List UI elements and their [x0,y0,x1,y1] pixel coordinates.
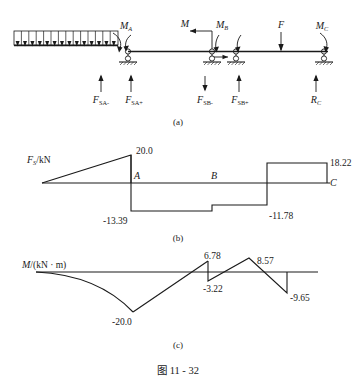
moment-MB-right-arrow [235,35,241,53]
label-MB: MB [215,19,228,31]
shear-value-neg1339: -13.39 [103,216,128,226]
label-MA: MA [119,20,132,32]
figure-caption: 图 11 - 32 [157,365,199,376]
shear-value-1822: 18.22 [330,158,352,168]
panel-label-b: (b) [173,233,184,243]
moment-MB-left-arrow [214,35,229,59]
label-M: M [180,18,190,29]
moment-axis-label: M/(kN · m) [21,259,66,271]
moment-value-857: 8.57 [257,256,274,266]
moment-MC-arrow [320,33,329,53]
label-FSA-minus: FSA- [92,94,109,106]
shear-axis-label: FS/kN [26,154,51,166]
reaction-FSA-plus-arrow [128,75,133,93]
label-RC: RC [310,94,322,106]
moment-curve-parabolic [36,272,133,312]
bending-moment-diagram: M/(kN · m) -20.0 6.78 -3.22 8.57 -9.65 (… [21,251,318,350]
label-FSA-plus: FSA+ [124,94,143,106]
support-C [315,54,333,65]
label-MC: MC [315,20,329,32]
reaction-FSB-plus-arrow [236,75,241,93]
moment-line-AB [133,261,208,312]
shear-station-A: A [133,170,141,181]
panel-label-a: (a) [173,117,183,127]
reaction-FSB-minus-arrow [202,76,207,92]
panel-label-c: (c) [173,340,183,350]
shear-station-C: C [330,177,337,188]
shear-force-diagram: FS/kN A B C 20.0 -13.39 -11.78 18.22 (b) [26,146,352,243]
label-F: F [277,19,285,30]
moment-value-678: 6.78 [204,251,221,261]
label-FSB-plus: FSB+ [230,94,249,106]
point-load-F-arrow [278,32,283,52]
shear-station-B: B [211,170,217,181]
figure-container: MA M MB F MC [0,0,356,390]
uniform-distributed-load [14,31,118,47]
beam-loading-diagram: MA M MB F MC [14,18,333,127]
moment-M-arrow [190,29,212,50]
shear-value-neg1178: -11.78 [269,211,293,221]
support-A [119,54,137,65]
moment-value-neg322: -3.22 [203,284,223,294]
reaction-FSA-minus-arrow [98,75,103,93]
support-B-left [203,54,221,65]
moment-value-neg965: -9.65 [290,293,310,303]
support-B-right [227,54,245,65]
shear-value-20: 20.0 [136,146,153,156]
label-FSB-minus: FSB- [196,94,213,106]
reaction-RC-arrow [313,75,318,93]
moment-value-neg20: -20.0 [112,317,132,327]
